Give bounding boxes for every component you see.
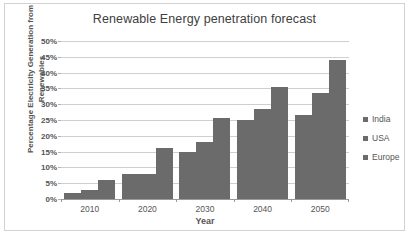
y-tick-label: 50%: [41, 37, 57, 46]
legend-label: USA: [372, 133, 389, 143]
bar-usa-2020[interactable]: [139, 174, 156, 199]
bar-group-bars: [119, 41, 177, 199]
y-tick-label: 0%: [45, 195, 57, 204]
bar-group-bars: [61, 41, 119, 199]
bar-usa-2050[interactable]: [312, 93, 329, 199]
bar-india-2030[interactable]: [179, 152, 196, 199]
y-tick-label: 35%: [41, 84, 57, 93]
bar-india-2040[interactable]: [237, 120, 254, 199]
bar-group: 2050: [291, 41, 349, 199]
bar-group-bars: [291, 41, 349, 199]
y-tick-label: 30%: [41, 100, 57, 109]
legend-item-india[interactable]: India: [363, 114, 399, 124]
y-tick-label: 10%: [41, 163, 57, 172]
x-tick-label: 2030: [176, 204, 234, 214]
x-axis-title: Year: [61, 216, 349, 226]
x-tick-mark: [234, 199, 235, 202]
bar-europe-2050[interactable]: [329, 60, 346, 199]
bar-usa-2010[interactable]: [81, 190, 98, 199]
bar-usa-2040[interactable]: [254, 109, 271, 199]
bar-group: 2030: [176, 41, 234, 199]
y-tick-label: 45%: [41, 52, 57, 61]
chart-title: Renewable Energy penetration forecast: [5, 12, 404, 26]
chart-legend: IndiaUSAEurope: [363, 114, 399, 171]
y-tick-label: 40%: [41, 68, 57, 77]
x-tick-mark: [176, 199, 177, 202]
x-tick-mark: [291, 199, 292, 202]
bar-group-bars: [234, 41, 292, 199]
x-tick-label: 2010: [61, 204, 119, 214]
bar-europe-2010[interactable]: [98, 180, 115, 199]
legend-item-europe[interactable]: Europe: [363, 152, 399, 162]
y-tick-label: 5%: [45, 179, 57, 188]
legend-label: India: [372, 114, 390, 124]
y-axis-title-line-1: Percentage Electricity Generation from: [25, 0, 36, 159]
bar-europe-2030[interactable]: [213, 118, 230, 199]
x-tick-label: 2020: [119, 204, 177, 214]
x-tick-label: 2040: [234, 204, 292, 214]
x-tick-mark: [119, 199, 120, 202]
bar-india-2010[interactable]: [64, 193, 81, 199]
legend-swatch-icon: [363, 117, 368, 122]
x-tick-label: 2050: [291, 204, 349, 214]
axis-baseline: [61, 199, 349, 200]
bar-india-2020[interactable]: [122, 174, 139, 199]
bar-group: 2020: [119, 41, 177, 199]
legend-label: Europe: [372, 152, 399, 162]
y-tick-label: 25%: [41, 116, 57, 125]
chart-frame: Renewable Energy penetration forecast Pe…: [4, 3, 405, 231]
plot-wrap: 50%45%40%35%30%25%20%15%10%5%0%201020202…: [61, 41, 349, 199]
legend-swatch-icon: [363, 155, 368, 160]
bar-europe-2040[interactable]: [271, 87, 288, 199]
x-tick-mark: [61, 199, 62, 202]
legend-item-usa[interactable]: USA: [363, 133, 399, 143]
bar-group-bars: [176, 41, 234, 199]
bar-india-2050[interactable]: [295, 115, 312, 199]
bar-usa-2030[interactable]: [196, 142, 213, 199]
bar-europe-2020[interactable]: [156, 148, 173, 199]
y-tick-label: 15%: [41, 147, 57, 156]
plot-area: 50%45%40%35%30%25%20%15%10%5%0%201020202…: [61, 41, 349, 199]
bar-group: 2010: [61, 41, 119, 199]
x-tick-mark: [348, 199, 349, 202]
y-tick-label: 20%: [41, 131, 57, 140]
legend-swatch-icon: [363, 136, 368, 141]
bar-group: 2040: [234, 41, 292, 199]
